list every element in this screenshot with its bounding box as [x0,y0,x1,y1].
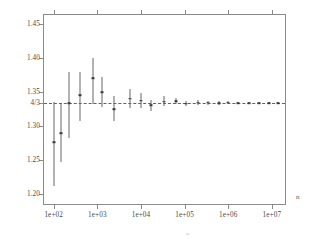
y-tick-label: 1.30 [27,122,40,130]
y-tick-label: 1.20 [27,190,40,198]
x-tick-mark-bottom [141,204,142,209]
errorbar-center-marker [68,103,71,105]
errorbar-center-marker [128,98,131,100]
x-tick-label: 1e+06 [219,211,238,219]
x-tick-mark-bottom [185,204,186,209]
errorbar-center-marker [257,102,260,104]
x-tick-mark-top [141,10,142,15]
errorbar-center-marker [52,142,55,144]
errorbar-center-marker [112,108,115,110]
x-tick-mark-top [185,10,186,15]
x-tick-label: 1e+02 [44,211,63,219]
errorbar-center-marker [196,102,199,104]
errorbar-center-marker [150,105,153,107]
x-axis-variable-label: n [296,193,300,201]
errorbar-center-marker [60,132,63,134]
x-tick-mark-top [272,10,273,15]
errorbar-whisker [79,72,80,121]
x-tick-mark-bottom [228,204,229,209]
errorbar-center-marker [277,102,280,104]
errorbar-center-marker [207,102,210,104]
x-tick-mark-bottom [272,204,273,209]
errorbar-center-marker [162,101,165,103]
y-tick-label: 1.45 [27,20,40,28]
errorbar-center-marker [139,100,142,102]
errorbar-center-marker [174,100,177,102]
x-tick-label: 1e+07 [263,211,282,219]
y-tick-label: 1.25 [27,156,40,164]
plot-area: 1.451.401.354/31.301.251.20 1e+021e+031e… [43,14,286,205]
x-tick-label: 1e+03 [88,211,107,219]
x-tick-label: 1e+04 [132,211,151,219]
x-tick-mark-top [54,10,55,15]
errorbar-center-marker [237,102,240,104]
chart-root: 1.451.401.354/31.301.251.20 1e+021e+031e… [0,0,317,239]
errorbar-center-marker [101,91,104,93]
errorbar-center-marker [227,102,230,104]
errorbar-center-marker [248,102,251,104]
errorbar-center-marker [217,102,220,104]
errorbar-center-marker [267,102,270,104]
x-tick-mark-top [228,10,229,15]
y-tick-label: 1.35 [27,88,40,96]
y-tick-label: 1.40 [27,54,40,62]
x-tick-mark-bottom [97,204,98,209]
errorbar-center-marker [92,77,95,79]
x-tick-label: 1e+05 [175,211,194,219]
x-tick-mark-top [97,10,98,15]
errorbar-center-marker [78,94,81,96]
errorbar-whisker [69,72,70,138]
errorbar-whisker [93,58,94,104]
bottom-stray-mark: ~ [186,231,189,237]
y-tick-label: 4/3 [31,99,41,107]
errorbar-center-marker [185,103,188,105]
errorbar-whisker [53,102,54,186]
x-tick-mark-bottom [54,204,55,209]
